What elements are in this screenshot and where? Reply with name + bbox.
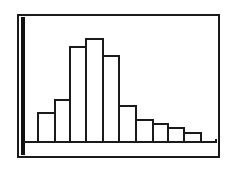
x-axis bbox=[24, 141, 217, 143]
x-axis-end-tick bbox=[215, 139, 217, 142]
y-axis bbox=[21, 17, 25, 155]
